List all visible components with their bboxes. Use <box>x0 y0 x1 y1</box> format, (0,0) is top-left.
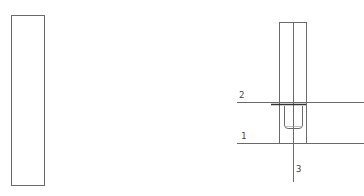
label-3: 3 <box>296 164 301 174</box>
label-2: 2 <box>239 90 244 100</box>
left-panel-rect <box>12 16 45 186</box>
diagram-canvas: 2 1 3 <box>0 0 364 196</box>
label-1: 1 <box>241 131 246 141</box>
